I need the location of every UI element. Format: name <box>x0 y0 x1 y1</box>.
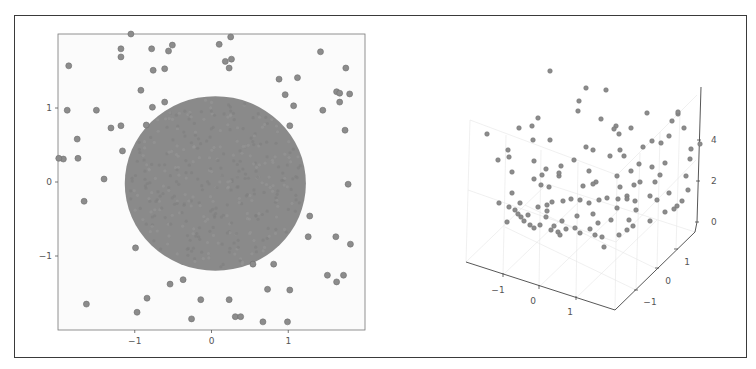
data-point-3d <box>510 191 515 196</box>
data-point-3d <box>663 210 668 215</box>
data-point-3d <box>559 164 564 169</box>
data-point-3d <box>558 233 563 238</box>
scatter-plot-3d: −101−101024 <box>0 0 756 369</box>
data-point-3d <box>544 167 549 172</box>
z3d-tick-label: 2 <box>711 176 717 186</box>
data-point-3d <box>608 154 613 159</box>
data-point-3d <box>633 199 638 204</box>
data-point-3d <box>672 207 677 212</box>
data-point-3d <box>617 233 622 238</box>
data-point-3d <box>516 212 521 217</box>
data-point-3d <box>522 219 527 224</box>
data-point-3d <box>637 162 642 167</box>
data-point-3d <box>638 180 643 185</box>
data-point-3d <box>530 124 535 129</box>
data-point-3d <box>538 223 543 228</box>
data-point-3d <box>576 109 581 114</box>
x3d-tick-label: −1 <box>491 285 504 295</box>
data-point-3d <box>600 235 605 240</box>
data-point-3d <box>544 215 549 220</box>
data-point-3d <box>532 226 537 231</box>
data-point-3d <box>627 218 632 223</box>
data-point-3d <box>680 199 685 204</box>
data-point-3d <box>536 205 541 210</box>
data-point-3d <box>631 224 636 229</box>
data-point-3d <box>616 197 621 202</box>
data-point-3d <box>650 165 655 170</box>
data-point-3d <box>578 231 583 236</box>
data-point-3d <box>605 196 610 201</box>
data-point-3d <box>550 200 555 205</box>
data-point-3d <box>663 161 668 166</box>
data-point-3d <box>618 185 623 190</box>
data-point-3d <box>561 199 566 204</box>
data-point-3d <box>532 159 537 164</box>
data-point-3d <box>684 174 689 179</box>
data-point-3d <box>615 206 620 211</box>
data-point-3d <box>596 221 601 226</box>
x3d-tick-label: 0 <box>530 296 536 306</box>
data-point-3d <box>629 169 634 174</box>
data-point-3d <box>653 180 658 185</box>
data-point-3d <box>629 126 634 131</box>
data-point-3d <box>584 145 589 150</box>
data-point-3d <box>584 86 589 91</box>
data-point-3d <box>588 227 593 232</box>
data-point-3d <box>507 155 512 160</box>
z3d-tick-label: 4 <box>711 135 717 145</box>
data-point-3d <box>547 185 552 190</box>
data-point-3d <box>591 148 596 153</box>
data-point-3d <box>545 209 550 214</box>
data-point-3d <box>507 205 512 210</box>
data-point-3d <box>536 116 541 121</box>
data-point-3d <box>581 184 586 189</box>
data-point-3d <box>597 198 602 203</box>
data-point-3d <box>549 228 554 233</box>
data-point-3d <box>573 226 578 231</box>
data-point-3d <box>689 147 694 152</box>
data-point-3d <box>575 214 580 219</box>
data-point-3d <box>609 218 614 223</box>
y3d-tick-label: −1 <box>643 297 656 307</box>
data-point-3d <box>591 182 596 187</box>
data-point-3d <box>557 171 562 176</box>
data-point-3d <box>632 183 637 188</box>
data-point-3d <box>634 208 639 213</box>
data-point-3d <box>682 126 687 131</box>
x3d-tick-label: 1 <box>567 307 573 317</box>
data-point-3d <box>496 158 501 163</box>
y3d-tick-label: 1 <box>684 257 690 267</box>
y3d-tick-label: 0 <box>665 276 671 286</box>
data-point-3d <box>485 132 490 137</box>
data-point-3d <box>526 213 531 218</box>
data-point-3d <box>587 201 592 206</box>
data-point-3d <box>604 88 609 93</box>
data-point-3d <box>564 227 569 232</box>
data-point-3d <box>497 201 502 206</box>
z-axis-line <box>695 87 701 232</box>
data-point-3d <box>513 208 518 213</box>
data-point-3d <box>688 157 693 162</box>
data-point-3d <box>615 174 620 179</box>
data-point-3d <box>560 219 565 224</box>
data-point-3d <box>667 191 672 196</box>
data-point-3d <box>648 219 653 224</box>
data-point-3d <box>505 220 510 225</box>
data-point-3d <box>577 99 582 104</box>
data-point-3d <box>548 69 553 74</box>
data-point-3d <box>578 198 583 203</box>
data-point-3d <box>602 245 607 250</box>
data-point-3d <box>648 194 653 199</box>
data-point-3d <box>625 228 630 233</box>
data-point-3d <box>591 212 596 217</box>
data-point-3d <box>617 132 622 137</box>
data-point-3d <box>698 142 703 147</box>
data-point-3d <box>686 188 691 193</box>
data-point-3d <box>510 170 515 175</box>
data-point-3d <box>552 224 557 229</box>
data-point-3d <box>569 197 574 202</box>
data-point-3d <box>645 111 650 116</box>
data-point-3d <box>667 134 672 139</box>
data-point-3d <box>517 126 522 131</box>
data-point-3d <box>587 169 592 174</box>
